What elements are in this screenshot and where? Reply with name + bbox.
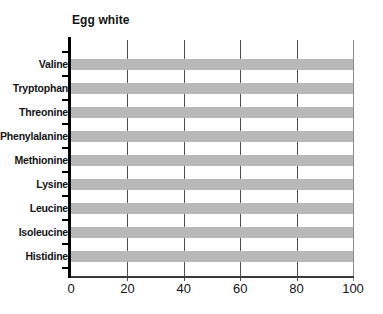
bar-threonine [71, 107, 353, 118]
bar-row [71, 76, 353, 100]
y-axis-tick [62, 51, 68, 53]
category-labels: ValineTryptophanThreoninePhenylalanineMe… [0, 52, 68, 268]
category-label-leucine: Leucine [0, 196, 68, 220]
y-axis-tick [62, 75, 68, 77]
bar-lysine [71, 179, 353, 190]
bar-leucine [71, 203, 353, 214]
x-axis-labels: 020406080100 [71, 282, 353, 298]
category-label-phenylalanine: Phenylalanine [0, 124, 68, 148]
bar-row [71, 220, 353, 244]
bar-row [71, 124, 353, 148]
bar-phenylalanine [71, 131, 353, 142]
bar-row [71, 100, 353, 124]
bar-valine [71, 59, 353, 70]
plot-area [71, 40, 353, 278]
y-axis-tick [62, 123, 68, 125]
category-label-methionine: Methionine [0, 148, 68, 172]
chart-title: Egg white [72, 13, 130, 27]
category-label-lysine: Lysine [0, 172, 68, 196]
category-label-tryptophan: Tryptophan [0, 76, 68, 100]
bar-row [71, 52, 353, 76]
y-axis-tick [62, 243, 68, 245]
y-axis-tick [62, 195, 68, 197]
y-axis-tick [62, 267, 68, 269]
bar-isoleucine [71, 227, 353, 238]
bar-row [71, 196, 353, 220]
category-label-valine: Valine [0, 52, 68, 76]
y-axis-tick [62, 219, 68, 221]
bar-row [71, 244, 353, 268]
y-axis-tick [62, 147, 68, 149]
gridline-100 [353, 40, 354, 281]
x-tick-label-40: 40 [177, 282, 191, 296]
category-label-histidine: Histidine [0, 244, 68, 268]
x-tick-label-0: 0 [67, 282, 74, 296]
y-axis-tick [62, 171, 68, 173]
x-axis-line [71, 276, 354, 278]
bar-row [71, 172, 353, 196]
y-axis-tick [62, 99, 68, 101]
category-label-threonine: Threonine [0, 100, 68, 124]
chart-canvas: Egg white ValineTryptophanThreoninePheny… [0, 0, 383, 314]
x-tick-label-20: 20 [120, 282, 134, 296]
bar-methionine [71, 155, 353, 166]
category-label-isoleucine: Isoleucine [0, 220, 68, 244]
bar-histidine [71, 251, 353, 262]
x-tick-label-80: 80 [289, 282, 303, 296]
bars-area [71, 52, 353, 268]
bar-row [71, 148, 353, 172]
x-tick-label-100: 100 [342, 282, 364, 296]
x-tick-label-60: 60 [233, 282, 247, 296]
bar-tryptophan [71, 83, 353, 94]
